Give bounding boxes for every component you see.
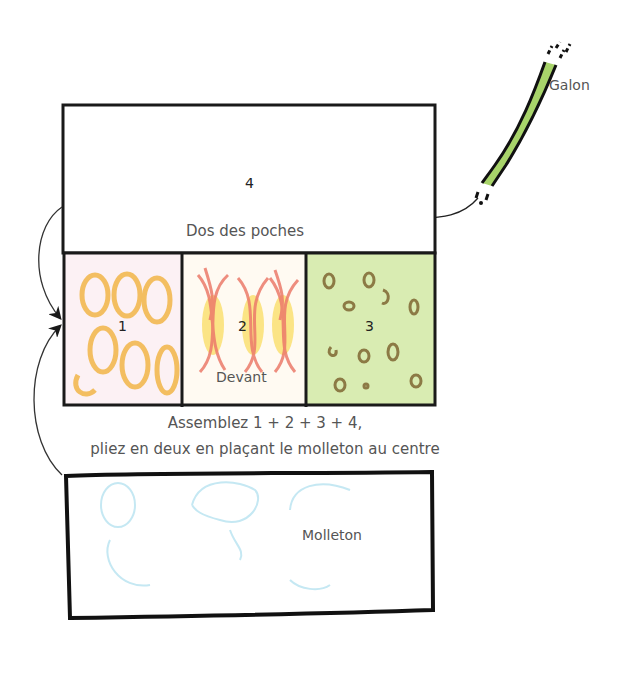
molleton-label: Molleton xyxy=(302,527,362,543)
instruction-line-2: pliez en deux en plaçant le molleton au … xyxy=(60,440,470,458)
fold-arrow-top xyxy=(39,207,62,318)
panel-4-label: Dos des poches xyxy=(186,222,304,240)
galon-strip xyxy=(476,42,570,205)
molleton-box xyxy=(66,472,433,618)
panel-4-number: 4 xyxy=(245,175,254,191)
panel-3-number: 3 xyxy=(365,318,374,334)
galon-label: Galon xyxy=(549,77,590,93)
front-label: Devant xyxy=(216,369,267,385)
diagram-canvas xyxy=(0,0,633,678)
fold-arrow-bottom xyxy=(34,326,62,475)
panel-1-number: 1 xyxy=(118,318,127,334)
panel-2-number: 2 xyxy=(238,318,247,334)
instruction-line-1: Assemblez 1 + 2 + 3 + 4, xyxy=(60,414,470,432)
